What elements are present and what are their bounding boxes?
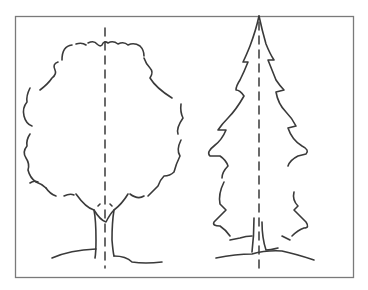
- deciduous-tree: [23, 42, 183, 263]
- conifer-tree: [209, 16, 314, 260]
- sketch-canvas: [0, 0, 368, 290]
